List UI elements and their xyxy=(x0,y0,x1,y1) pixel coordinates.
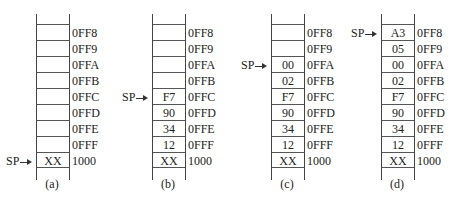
address-label: 1000 xyxy=(417,153,441,169)
memory-cell: 00 xyxy=(382,56,414,72)
memory-cell: F7 xyxy=(382,88,414,104)
sp-label: SP xyxy=(351,26,364,40)
memory-cell: 90 xyxy=(382,104,414,120)
panel-caption: (d) xyxy=(381,176,413,192)
address-label: 0FFB xyxy=(417,73,444,89)
memory-cell: 34 xyxy=(382,120,414,136)
memory-cell: 02 xyxy=(382,72,414,88)
address-label: 0FFF xyxy=(417,137,443,153)
memory-stack: A3050002F7903412XX xyxy=(381,14,415,180)
address-label: 0FFA xyxy=(417,57,444,73)
memory-cell: A3 xyxy=(382,24,414,40)
address-label: 0FF9 xyxy=(417,41,442,57)
address-label: 0FFC xyxy=(417,89,444,105)
memory-cell: 12 xyxy=(382,136,414,152)
arrow-right-icon xyxy=(365,34,375,35)
stack-panel-d: A3050002F7903412XX0FF80FF90FFA0FFB0FFC0F… xyxy=(0,0,451,200)
stack-pointer: SP xyxy=(351,25,375,41)
address-label: 0FFE xyxy=(417,121,444,137)
address-label: 0FFD xyxy=(417,105,445,121)
memory-cell: 05 xyxy=(382,40,414,56)
address-label: 0FF8 xyxy=(417,25,442,41)
memory-cell: XX xyxy=(382,152,414,168)
